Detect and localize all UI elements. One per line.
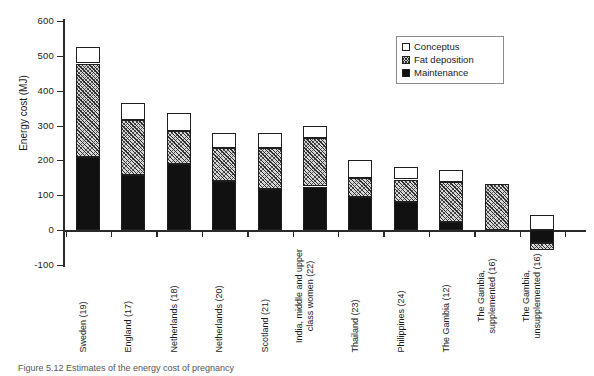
bar-segment-fat — [394, 180, 418, 203]
bar-segment-maintenance — [76, 157, 100, 230]
bar-segment-maintenance — [121, 175, 145, 230]
x-axis-tick — [293, 230, 295, 237]
x-axis-category-label-text: Scotland (21) — [259, 240, 270, 352]
x-axis-category-label-text: Netherlands (18) — [168, 240, 179, 352]
x-axis-category-label: Philippines (24) — [393, 240, 419, 352]
x-axis-category-label: The Gambia (12) — [438, 240, 464, 352]
bar-segment-maintenance — [394, 202, 418, 230]
legend-label-maintenance: Maintenance — [414, 67, 468, 78]
bar-segment-fat — [348, 178, 372, 197]
x-axis-category-label-text: Sweden (19) — [78, 240, 89, 352]
y-axis-tick-label-wrap: 600 — [12, 16, 54, 26]
y-axis-tick-label: 300 — [20, 121, 54, 131]
legend-item-conceptus: Conceptus — [402, 40, 498, 53]
x-axis-tick — [111, 230, 113, 237]
x-axis-category-label-text: England (17) — [123, 240, 134, 352]
x-axis-tick — [520, 230, 522, 237]
bar-segment-fat — [76, 64, 100, 157]
bar-segment-fat — [303, 138, 327, 187]
x-axis-category-label: The Gambia, supplemented (16) — [484, 240, 510, 352]
y-axis-tick-label: -100 — [20, 260, 54, 270]
bar-segment-maintenance — [348, 197, 372, 230]
x-axis-category-label: Netherlands (20) — [211, 240, 237, 352]
y-axis-tick-label: 400 — [20, 86, 54, 96]
x-axis-tick — [383, 230, 385, 237]
y-axis-tick-label: 0 — [20, 225, 54, 235]
bar-segment-conceptus — [439, 170, 463, 182]
black-square-icon — [402, 69, 410, 77]
x-axis-category-label-text: Philippines (24) — [395, 240, 406, 352]
bar-segment-conceptus — [394, 167, 418, 179]
x-axis-category-label: India, middle and upper class women (22) — [302, 240, 328, 352]
bar-segment-maintenance — [303, 187, 327, 231]
y-axis-tick-label-wrap: 400 — [12, 86, 54, 96]
x-axis-tick — [202, 230, 204, 237]
y-axis-tick — [57, 21, 65, 22]
bar-segment-fat — [121, 120, 145, 175]
x-axis-category-label-text: Netherlands (20) — [214, 240, 225, 352]
y-axis-tick — [57, 126, 65, 127]
x-axis-category-label: England (17) — [120, 240, 146, 352]
x-axis-category-label-text: The Gambia, supplemented (16) — [476, 240, 497, 352]
legend-label-conceptus: Conceptus — [414, 41, 459, 52]
y-axis-tick-label: 200 — [20, 155, 54, 165]
x-axis-tick — [429, 230, 431, 237]
x-axis-category-label: Netherlands (18) — [166, 240, 192, 352]
legend: Conceptus Fat deposition Maintenance — [396, 36, 504, 84]
bar-segment-conceptus — [167, 113, 191, 130]
y-axis-tick — [57, 265, 65, 266]
y-axis-tick-label-wrap: 500 — [12, 51, 54, 61]
figure-energy-cost-of-pregnancy: Energy cost (MJ) 6005004003002001000-100… — [0, 0, 594, 376]
legend-item-fat-deposition: Fat deposition — [402, 53, 498, 66]
bar-segment-fat — [439, 182, 463, 222]
bar-segment-conceptus — [76, 47, 100, 63]
bar-segment-maintenance — [258, 189, 282, 230]
x-axis-tick — [156, 230, 158, 237]
y-axis-tick — [57, 56, 65, 57]
x-axis-tick — [565, 230, 567, 237]
legend-item-maintenance: Maintenance — [402, 66, 498, 79]
bar-segment-conceptus — [121, 103, 145, 120]
bar-segment-maintenance — [167, 164, 191, 230]
y-axis-tick-label: 600 — [20, 16, 54, 26]
bar-segment-conceptus — [530, 215, 554, 230]
bar-segment-conceptus — [303, 126, 327, 138]
y-axis-tick-label: 100 — [20, 190, 54, 200]
y-axis-tick-label-wrap: -100 — [12, 260, 54, 270]
bar-segment-conceptus — [212, 133, 236, 149]
x-axis-category-label: Scotland (21) — [257, 240, 283, 352]
x-axis-category-label: Sweden (19) — [75, 240, 101, 352]
bar-segment-fat — [485, 184, 509, 230]
x-axis-category-label-text: Thailand (23) — [350, 240, 361, 352]
y-axis-tick-label-wrap: 0 — [12, 225, 54, 235]
y-axis-tick-label: 500 — [20, 51, 54, 61]
x-axis-category-label-text: The Gambia (12) — [441, 240, 452, 352]
y-axis-tick — [57, 230, 65, 231]
bar-segment-conceptus — [348, 160, 372, 177]
y-axis-tick — [57, 160, 65, 161]
x-axis-tick — [66, 230, 68, 237]
bar-segment-conceptus — [258, 133, 282, 148]
y-axis-tick — [57, 91, 65, 92]
y-axis-tick-label-wrap: 200 — [12, 155, 54, 165]
x-axis-tick — [338, 230, 340, 237]
bar-segment-maintenance — [439, 222, 463, 230]
y-axis-tick-label-wrap: 300 — [12, 121, 54, 131]
bar-segment-fat — [258, 148, 282, 189]
x-axis-tick — [247, 230, 249, 237]
hatched-square-icon — [402, 56, 410, 64]
x-axis-tick — [474, 230, 476, 237]
x-axis-category-label: The Gambia, unsupplemented (16) — [529, 240, 555, 352]
bar-segment-fat — [167, 131, 191, 164]
y-axis-tick — [57, 195, 65, 196]
white-square-icon — [402, 43, 410, 51]
x-axis-category-label-text: India, middle and upper class women (22) — [294, 240, 315, 352]
bar-segment-fat — [212, 148, 236, 181]
legend-label-fat-deposition: Fat deposition — [414, 54, 474, 65]
x-axis-category-label-text: The Gambia, unsupplemented (16) — [521, 240, 542, 352]
bar-segment-maintenance — [212, 181, 236, 230]
y-axis-tick-label-wrap: 100 — [12, 190, 54, 200]
x-axis-category-label: Thailand (23) — [347, 240, 373, 352]
figure-caption: Figure 5.12 Estimates of the energy cost… — [18, 362, 578, 374]
